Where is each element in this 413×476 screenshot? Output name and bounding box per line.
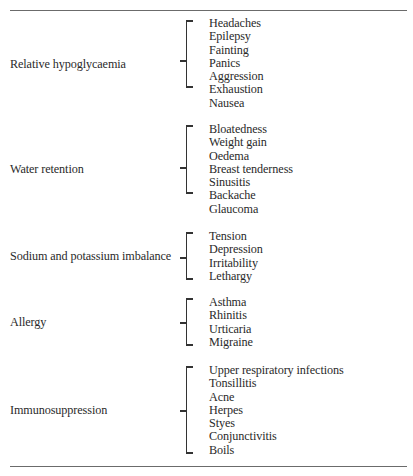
list-item: Acne (209, 391, 344, 404)
group-label: Sodium and potassium imbalance (10, 250, 171, 263)
list-item: Headaches (209, 17, 264, 30)
bracket-icon (186, 298, 197, 346)
list-item: Tonsillitis (209, 377, 344, 390)
group-label: Allergy (10, 316, 46, 329)
list-item: Backache (209, 189, 293, 202)
list-item: Bloatedness (209, 123, 293, 136)
list-item: Upper respiratory infections (209, 364, 344, 377)
bracket-icon (186, 366, 197, 454)
list-item: Aggression (209, 70, 264, 83)
list-item: Oedema (209, 150, 293, 163)
list-item: Glaucoma (209, 203, 293, 216)
symptom-list: Bloatedness Weight gain Oedema Breast te… (209, 123, 293, 216)
list-item: Weight gain (209, 136, 293, 149)
list-item: Exhaustion (209, 83, 264, 96)
list-item: Urticaria (209, 323, 253, 336)
bracket-icon (186, 20, 197, 88)
list-item: Depression (209, 243, 263, 256)
list-item: Tension (209, 230, 263, 243)
symptom-list: Asthma Rhinitis Urticaria Migraine (209, 296, 253, 349)
group-label: Immunosuppression (10, 404, 107, 417)
list-item: Fainting (209, 44, 264, 57)
group-label: Water retention (10, 163, 84, 176)
bracket-icon (186, 125, 197, 194)
list-item: Migraine (209, 336, 253, 349)
list-item: Asthma (209, 296, 253, 309)
list-item: Panics (209, 57, 264, 70)
top-rule (10, 10, 407, 11)
bottom-rule (10, 466, 407, 467)
list-item: Herpes (209, 404, 344, 417)
bracket-tick (180, 167, 187, 169)
list-item: Lethargy (209, 270, 263, 283)
list-item: Styes (209, 417, 344, 430)
bracket-tick (180, 257, 187, 259)
list-item: Boils (209, 444, 344, 457)
symptom-list: Tension Depression Irritability Lethargy (209, 230, 263, 283)
list-item: Irritability (209, 257, 263, 270)
bracket-tick (180, 322, 187, 324)
list-item: Conjunctivitis (209, 430, 344, 443)
list-item: Breast tenderness (209, 163, 293, 176)
list-item: Nausea (209, 97, 264, 110)
group-label: Relative hypoglycaemia (10, 58, 126, 71)
bracket-icon (186, 232, 197, 280)
symptom-list: Upper respiratory infections Tonsillitis… (209, 364, 344, 457)
symptom-list: Headaches Epilepsy Fainting Panics Aggre… (209, 17, 264, 110)
bracket-tick (180, 410, 187, 412)
list-item: Rhinitis (209, 309, 253, 322)
list-item: Sinusitis (209, 176, 293, 189)
bracket-tick (180, 60, 187, 62)
list-item: Epilepsy (209, 30, 264, 43)
